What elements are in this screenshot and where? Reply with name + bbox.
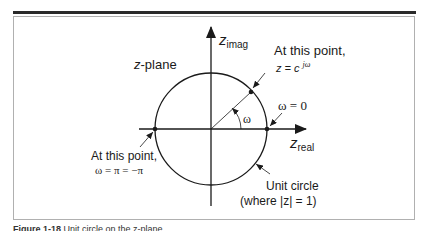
- plane-rest: -plane: [141, 57, 177, 72]
- annotation-top-right-line1: At this point,: [274, 44, 346, 57]
- real-sub: real: [298, 142, 315, 153]
- annotation-left-line2: ω = π = −π: [95, 164, 143, 177]
- imag-var: z: [219, 31, 227, 48]
- real-axis-label: zreal: [290, 136, 314, 151]
- pointer-unit-circle: [256, 164, 270, 174]
- caption-text: Unit circle on the z-plane.: [64, 224, 166, 231]
- real-var: z: [290, 134, 298, 151]
- angle-label: ω: [243, 113, 251, 126]
- euler-lhs: z = c: [276, 62, 300, 74]
- plane-label: z-plane: [134, 58, 177, 71]
- figure-caption: Figure 1-18 Unit circle on the z-plane.: [13, 224, 165, 231]
- z-plane-diagram: [0, 0, 428, 231]
- pointer-left: [140, 132, 153, 147]
- point-omega-zero: [265, 127, 270, 132]
- point-omega-pi: [153, 127, 158, 132]
- pointer-omega-zero: [270, 113, 282, 126]
- point-omega-theta: [249, 90, 254, 95]
- imag-axis-label: zimag: [219, 33, 248, 48]
- caption-number: Figure 1-18: [13, 224, 61, 231]
- euler-exponent: jω: [303, 60, 311, 69]
- annotation-unit-circle-line1: Unit circle: [266, 180, 319, 193]
- annotation-omega-zero: ω = 0: [278, 99, 307, 112]
- pointer-top-right: [253, 73, 265, 88]
- annotation-top-right-line2: z = cjω: [276, 62, 310, 76]
- imag-sub: imag: [227, 39, 249, 50]
- annotation-left-line1: At this point,: [91, 150, 157, 163]
- annotation-unit-circle-line2: (where |z| = 1): [240, 195, 317, 208]
- angle-arc: [232, 108, 241, 129]
